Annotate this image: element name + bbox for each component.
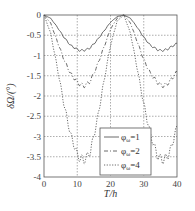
x-tick-label: 10 [73,179,83,189]
legend-label: φω=2 [121,146,140,157]
legend-label: φω=4 [121,160,140,171]
y-tick-label: -2.5 [27,111,42,121]
y-tick-label: 0 [37,10,42,20]
y-tick-label: -2 [34,91,42,101]
y-tick-label: -4 [34,172,42,182]
y-tick-label: -1.5 [27,71,42,81]
y-tick-label: -3.5 [27,152,42,162]
x-axis-label: T/h [104,188,117,199]
y-axis-label: δΩ/(°) [5,83,17,109]
legend: φω=1φω=2φω=4 [100,128,151,175]
line-chart: 0-0.5-1-1.5-2-2.5-3-3.5-4 010203040 T/h … [0,0,195,211]
y-tick-label: -0.5 [27,30,42,40]
y-tick-label: -3 [34,132,42,142]
y-axis-ticks: 0-0.5-1-1.5-2-2.5-3-3.5-4 [27,10,42,182]
x-tick-label: 0 [42,179,47,189]
x-tick-label: 30 [139,179,149,189]
legend-label: φω=1 [121,132,140,143]
y-tick-label: -1 [34,51,42,61]
x-tick-label: 40 [173,179,183,189]
